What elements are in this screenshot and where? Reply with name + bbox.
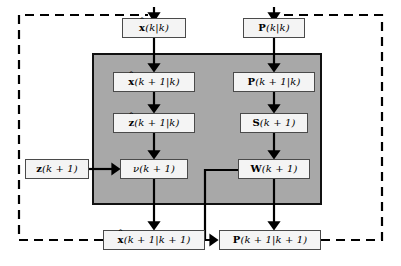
- node-args: (k + 1|k + 1): [124, 235, 191, 245]
- node-x-hat-k-given-k[interactable]: x(k|k): [122, 18, 186, 38]
- node-args: (k + 1): [139, 164, 175, 174]
- node-args: (k + 1): [262, 164, 298, 174]
- node-label: P: [258, 23, 266, 33]
- node-x-hat-k-plus-1-given-k[interactable]: x(k + 1|k): [113, 72, 195, 92]
- node-args: (k|k): [266, 23, 290, 33]
- connector-layer: [0, 0, 401, 266]
- node-label: z: [128, 118, 134, 128]
- node-args: (k|k): [145, 23, 169, 33]
- node-label: P: [248, 77, 256, 87]
- node-label: S: [253, 118, 260, 128]
- node-p-k-plus-1-given-k[interactable]: P(k + 1|k): [233, 72, 315, 92]
- node-label: x: [118, 235, 124, 245]
- node-z-hat-k-plus-1-given-k[interactable]: z(k + 1|k): [113, 113, 195, 133]
- node-label: P: [233, 235, 241, 245]
- kalman-filter-diagram: x(k|k) P(k|k) x(k + 1|k) P(k + 1|k) z(k …: [0, 0, 401, 266]
- node-s-k-plus-1[interactable]: S(k + 1): [240, 113, 308, 133]
- node-label: x: [139, 23, 145, 33]
- node-label: x: [128, 77, 134, 87]
- node-z-measurement-k-plus-1[interactable]: z(k + 1): [25, 159, 89, 179]
- node-p-k-given-k[interactable]: P(k|k): [243, 18, 305, 38]
- node-w-gain-k-plus-1[interactable]: W(k + 1): [238, 159, 310, 179]
- node-args: (k + 1): [42, 164, 78, 174]
- node-x-hat-k-plus-1-given-k-plus-1[interactable]: x(k + 1|k + 1): [103, 230, 205, 250]
- node-args: (k + 1|k): [134, 118, 179, 128]
- node-args: (k + 1|k): [134, 77, 179, 87]
- node-p-k-plus-1-given-k-plus-1[interactable]: P(k + 1|k + 1): [219, 230, 321, 250]
- node-args: (k + 1|k + 1): [240, 235, 307, 245]
- node-label: W: [250, 164, 261, 174]
- node-args: (k + 1|k): [255, 77, 300, 87]
- node-nu-innovation-k-plus-1[interactable]: ν(k + 1): [120, 159, 188, 179]
- node-args: (k + 1): [260, 118, 296, 128]
